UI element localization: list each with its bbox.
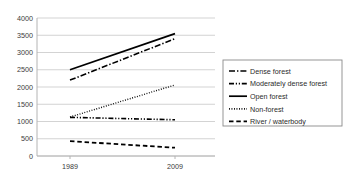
gridlines: [37, 18, 215, 156]
series-line: [70, 39, 175, 80]
series-line: [70, 34, 175, 70]
series-line: [70, 85, 175, 117]
series-line: [70, 141, 175, 148]
y-tick-label: 4000: [17, 14, 33, 23]
legend: Dense forestModerately dense forestOpen …: [223, 60, 342, 126]
y-tick-label: 2500: [17, 65, 33, 74]
line-chart: 05001000150020002500300035004000 1989200…: [0, 0, 344, 186]
x-axis-tick-labels: 19892009: [62, 162, 183, 171]
legend-label: River / waterbody: [250, 117, 306, 126]
series-line: [70, 117, 175, 119]
legend-label: Non-forest: [250, 105, 284, 114]
x-tick-label: 1989: [62, 162, 78, 171]
x-tick-label: 2009: [167, 162, 183, 171]
y-tick-label: 3500: [17, 31, 33, 40]
y-tick-label: 1500: [17, 100, 33, 109]
legend-label: Moderately dense forest: [250, 79, 327, 88]
legend-label: Open forest: [250, 92, 288, 101]
y-tick-label: 0: [29, 152, 33, 161]
y-tick-label: 1000: [17, 117, 33, 126]
data-series-group: [70, 34, 175, 148]
y-tick-label: 500: [21, 134, 33, 143]
legend-label: Dense forest: [250, 67, 291, 76]
y-tick-label: 3000: [17, 48, 33, 57]
chart-canvas: 05001000150020002500300035004000 1989200…: [0, 0, 344, 186]
y-axis-tick-labels: 05001000150020002500300035004000: [17, 14, 33, 161]
y-tick-label: 2000: [17, 83, 33, 92]
